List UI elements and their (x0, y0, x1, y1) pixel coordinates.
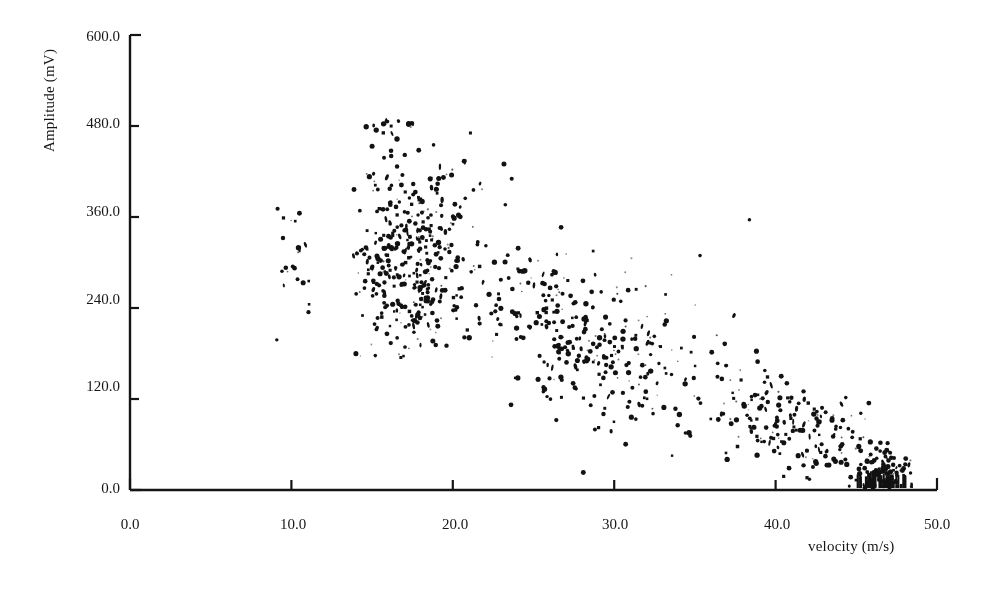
x-tick-label-10: 10.0 (258, 516, 328, 533)
y-tick-label-360: 360.0 (50, 203, 120, 220)
x-axis-title: velocity (m/s) (808, 538, 895, 555)
x-tick-label-50: 50.0 (902, 516, 972, 533)
scatter-plot-figure: Amplitude (mV) velocity (m/s) 600.0 480.… (0, 0, 992, 594)
x-tick-label-20: 20.0 (420, 516, 490, 533)
x-tick-label-30: 30.0 (580, 516, 650, 533)
x-tick-label-40: 40.0 (742, 516, 812, 533)
y-tick-label-240: 240.0 (50, 291, 120, 308)
x-tick-label-0: 0.0 (95, 516, 165, 533)
scatter-plot-canvas (0, 0, 992, 594)
y-tick-label-0: 0.0 (50, 480, 120, 497)
y-tick-label-600: 600.0 (50, 28, 120, 45)
y-tick-label-120: 120.0 (50, 378, 120, 395)
y-tick-label-480: 480.0 (50, 115, 120, 132)
